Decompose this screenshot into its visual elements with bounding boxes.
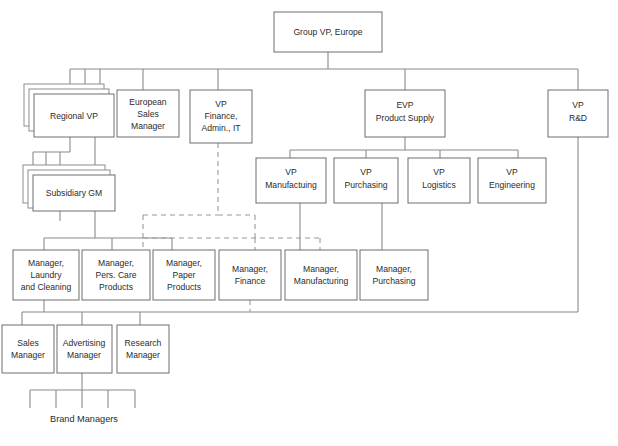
node-label: Finance, — [205, 111, 238, 121]
node-label: and Cleaning — [21, 282, 72, 292]
node-manager-manufacturing[interactable]: Manager, Manufacturing — [285, 250, 357, 300]
node-vp-logistics[interactable]: VP Logistics — [408, 158, 470, 203]
node-label: Logistics — [422, 180, 455, 190]
node-vp-manufacturing[interactable]: VP Manufactuing — [256, 158, 326, 203]
node-label: Engineering — [489, 180, 535, 190]
node-label: Laundry — [30, 270, 62, 280]
node-label: VP — [433, 167, 445, 177]
node-label: Manager, — [28, 258, 64, 268]
node-label: Manager — [67, 350, 101, 360]
node-label: Manufacturing — [294, 276, 349, 286]
node-manager-pers-care[interactable]: Manager, Pers. Care Products — [82, 250, 150, 300]
node-label: Manager — [11, 350, 45, 360]
node-european-sales-manager[interactable]: European Sales Manager — [117, 90, 179, 137]
node-label: Research — [125, 338, 162, 348]
node-label: VP — [360, 167, 372, 177]
node-label: Purchasing — [373, 276, 416, 286]
node-label: European — [129, 97, 166, 107]
node-label: Group VP, Europe — [293, 27, 362, 37]
node-label: VP — [215, 99, 227, 109]
node-label: VP — [572, 100, 584, 110]
node-vp-engineering[interactable]: VP Engineering — [478, 158, 546, 203]
node-group-vp-europe[interactable]: Group VP, Europe — [274, 12, 382, 52]
node-advertising-manager[interactable]: Advertising Manager — [57, 325, 112, 373]
node-label: Advertising — [63, 338, 106, 348]
node-label: Paper — [173, 270, 196, 280]
node-manager-paper[interactable]: Manager, Paper Products — [153, 250, 215, 300]
node-label: Manager — [131, 121, 165, 131]
node-label: Manager, — [166, 258, 202, 268]
node-label: Pers. Care — [95, 270, 136, 280]
node-evp-product-supply[interactable]: EVP Product Supply — [365, 90, 445, 137]
node-vp-finance-admin-it[interactable]: VP Finance, Admin., IT — [190, 90, 252, 143]
node-label: Manager, — [303, 264, 339, 274]
node-manager-laundry-cleaning[interactable]: Manager, Laundry and Cleaning — [13, 250, 79, 300]
node-research-manager[interactable]: Research Manager — [117, 325, 169, 373]
node-label: Manager, — [98, 258, 134, 268]
node-label: R&D — [569, 113, 587, 123]
node-regional-vp[interactable]: Regional VP — [24, 84, 114, 137]
node-sales-manager[interactable]: Sales Manager — [2, 325, 54, 373]
node-label: Admin., IT — [201, 123, 241, 133]
node-label: Manager, — [376, 264, 412, 274]
node-label: VP — [506, 167, 518, 177]
node-subsidiary-gm[interactable]: Subsidiary GM — [23, 165, 115, 211]
node-label: Products — [99, 282, 133, 292]
node-label: Sales — [137, 109, 159, 119]
node-label: Regional VP — [50, 111, 98, 121]
node-manager-finance[interactable]: Manager, Finance — [219, 250, 281, 300]
node-label: Product Supply — [376, 113, 435, 123]
node-label: Sales — [17, 338, 39, 348]
node-label: Manufactuing — [265, 180, 317, 190]
node-label: VP — [285, 167, 297, 177]
node-vp-purchasing[interactable]: VP Purchasing — [334, 158, 398, 203]
org-chart-diagram: Group VP, Europe Regional VP European Sa… — [0, 0, 618, 446]
node-label: Purchasing — [345, 180, 388, 190]
node-label: Manager, — [232, 264, 268, 274]
brand-managers-label: Brand Managers — [50, 414, 118, 424]
node-label: Subsidiary GM — [46, 188, 102, 198]
node-label: Finance — [235, 276, 266, 286]
node-manager-purchasing[interactable]: Manager, Purchasing — [360, 250, 428, 300]
node-label: Manager — [126, 350, 160, 360]
node-label: EVP — [396, 100, 413, 110]
node-label: Products — [167, 282, 201, 292]
node-vp-rd[interactable]: VP R&D — [548, 90, 608, 137]
